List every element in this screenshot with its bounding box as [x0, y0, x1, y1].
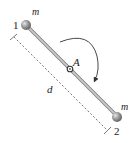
mass-1 — [21, 20, 31, 30]
mass-1-symbol: m — [32, 6, 39, 17]
mass-2-number: 2 — [114, 125, 120, 137]
pivot-label: A — [72, 56, 80, 68]
dimension-tick-start — [10, 34, 17, 40]
mass-2-symbol: m — [121, 101, 128, 112]
rigid-body-diagram: 1 m A d m 2 — [0, 0, 135, 143]
mass-1-number: 1 — [13, 19, 19, 31]
mass-2 — [112, 112, 122, 122]
distance-label: d — [47, 83, 53, 95]
pivot-a — [67, 66, 73, 72]
distance-dimension — [10, 34, 111, 134]
